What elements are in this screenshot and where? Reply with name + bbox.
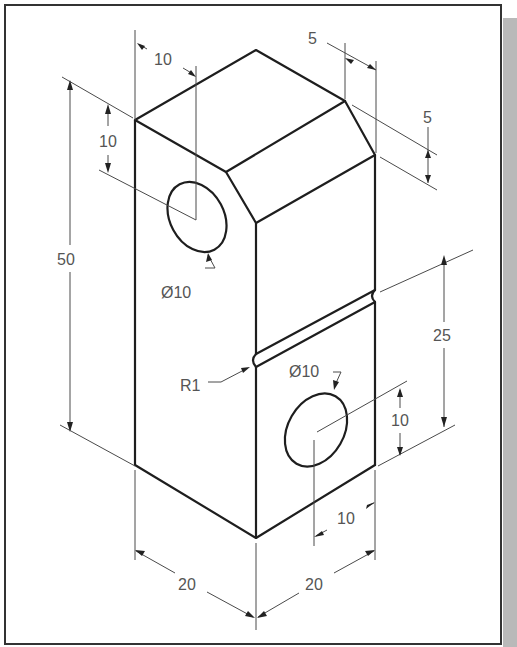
chamfer-face xyxy=(226,101,375,223)
dim-top-hole-diameter: Ø10 xyxy=(161,284,191,301)
dim-chamfer-vertical: 5 xyxy=(423,109,432,126)
dim-top-hole-offset-y: 10 xyxy=(99,133,117,150)
top-hole xyxy=(156,172,238,263)
dim-top-hole-offset-x: 10 xyxy=(154,51,172,68)
dim-width-left: 20 xyxy=(178,576,196,593)
isometric-part-drawing: 10 10 50 5 5 Ø10 R1 25 Ø10 10 10 20 20 xyxy=(0,0,517,647)
dimension-lines xyxy=(60,30,473,630)
groove xyxy=(253,290,375,367)
groove-bottom-line xyxy=(256,302,375,367)
dim-chamfer-horizontal: 5 xyxy=(308,30,317,47)
dim-bottom-hole-offset-y: 10 xyxy=(391,412,409,429)
groove-top-line xyxy=(256,290,375,354)
dim-width-right: 20 xyxy=(305,576,323,593)
dim-bottom-hole-offset-x: 10 xyxy=(337,510,355,527)
bottom-hole xyxy=(272,382,359,478)
groove-right-arc xyxy=(372,290,375,302)
dim-groove-height: 25 xyxy=(433,327,451,344)
groove-left-arc xyxy=(253,354,256,367)
dim-overall-height: 50 xyxy=(57,251,75,268)
dim-bottom-hole-diameter: Ø10 xyxy=(289,363,319,380)
dim-groove-radius: R1 xyxy=(180,377,201,394)
top-face xyxy=(135,50,345,172)
